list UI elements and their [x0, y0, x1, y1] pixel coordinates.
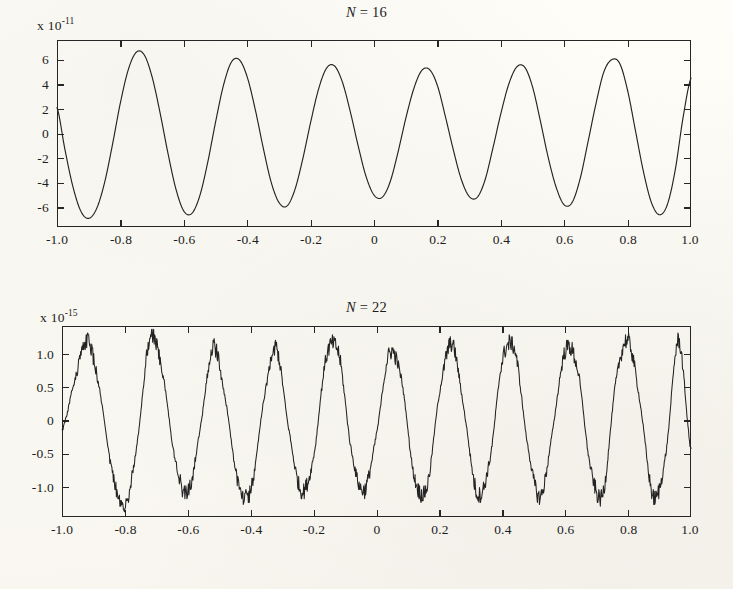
error-curve-n16 [57, 51, 691, 219]
figure-two-panel-error-plots: N = 16 x 10-11 6 4 2 0 -2 -4 -6 [0, 0, 733, 589]
error-curve-n22 [62, 329, 691, 512]
curve-layer-top [0, 0, 733, 295]
curve-layer-bottom [0, 295, 733, 589]
plot-panel-top: N = 16 x 10-11 6 4 2 0 -2 -4 -6 [0, 0, 733, 295]
plot-panel-bottom: N = 22 x 10-15 1.0 0.5 0 -0.5 -1.0 [0, 295, 733, 589]
